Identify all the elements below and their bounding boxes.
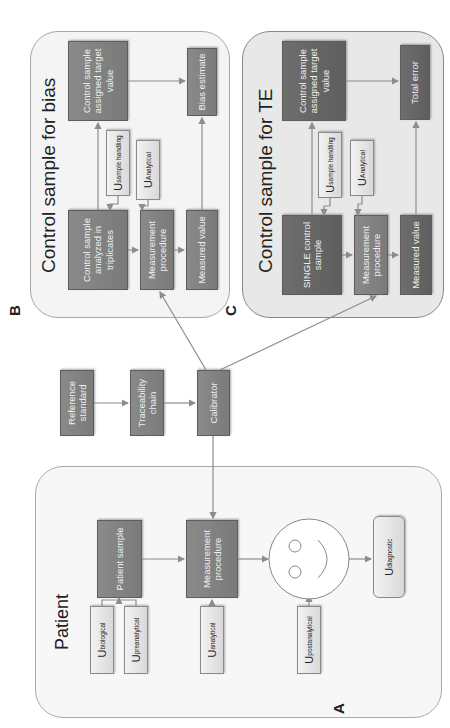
smiley-face-icon — [269, 519, 349, 599]
connector-lines — [0, 0, 450, 728]
diagram-canvas: B Control sample for bias Control sample… — [0, 0, 450, 728]
